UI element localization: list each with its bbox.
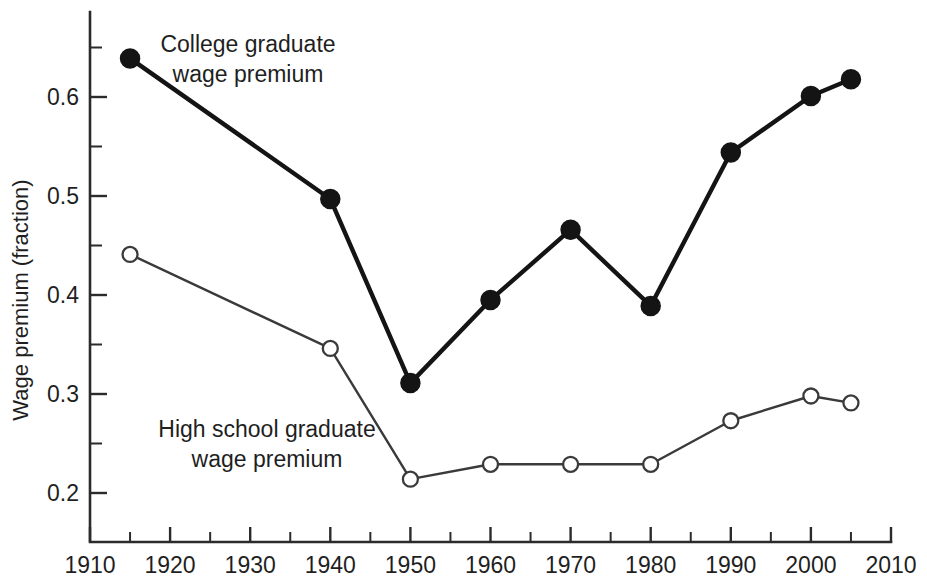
x-tick-label: 1910 (64, 552, 115, 578)
data-point-college (721, 143, 740, 162)
data-point-high-school (563, 457, 578, 472)
data-point-high-school (403, 472, 418, 487)
data-point-college (401, 374, 420, 393)
data-point-high-school (643, 457, 658, 472)
x-tick-label: 1990 (705, 552, 756, 578)
y-axis-title: Wage premium (fraction) (8, 179, 33, 420)
x-tick-label: 1930 (225, 552, 276, 578)
data-point-high-school (123, 247, 138, 262)
data-point-high-school (803, 388, 818, 403)
x-tick-label: 1970 (545, 552, 596, 578)
x-tick-label: 2010 (865, 552, 916, 578)
data-point-college (561, 220, 580, 239)
data-point-college (841, 70, 860, 89)
data-point-high-school (483, 457, 498, 472)
data-point-high-school (843, 395, 858, 410)
x-tick-label: 1960 (465, 552, 516, 578)
chart-container: 0.20.30.40.50.6 191019201930194019501960… (0, 0, 927, 588)
high-school-annotation-line: wage premium (191, 446, 343, 472)
y-tick-label: 0.2 (47, 480, 79, 506)
data-point-high-school (723, 413, 738, 428)
chart-background (0, 0, 927, 588)
data-point-high-school (323, 341, 338, 356)
college-annotation-line: College graduate (160, 31, 335, 57)
data-point-college (641, 296, 660, 315)
y-tick-label: 0.6 (47, 84, 79, 110)
y-tick-label: 0.3 (47, 381, 79, 407)
x-tick-label: 2000 (785, 552, 836, 578)
data-point-college (801, 87, 820, 106)
college-annotation-line: wage premium (172, 61, 324, 87)
y-tick-label: 0.5 (47, 183, 79, 209)
x-tick-label: 1950 (385, 552, 436, 578)
x-tick-label: 1980 (625, 552, 676, 578)
data-point-college (481, 290, 500, 309)
high-school-annotation-line: High school graduate (158, 416, 375, 442)
wage-premium-line-chart: 0.20.30.40.50.6 191019201930194019501960… (0, 0, 927, 588)
x-tick-label: 1920 (145, 552, 196, 578)
x-axis-tick-labels: 1910192019301940195019601970198019902000… (64, 552, 916, 578)
x-tick-label: 1940 (305, 552, 356, 578)
data-point-college (321, 189, 340, 208)
y-tick-label: 0.4 (47, 282, 79, 308)
data-point-college (121, 49, 140, 68)
